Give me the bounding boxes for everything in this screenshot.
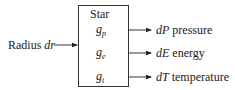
block-title: Star xyxy=(90,7,109,22)
output-label-temperature: dT temperature xyxy=(156,70,229,85)
function-gt: gt xyxy=(96,69,104,85)
output-var: dT xyxy=(156,70,169,84)
output-text: temperature xyxy=(169,70,229,84)
output-text: pressure xyxy=(169,23,212,37)
input-label: Radius dr xyxy=(8,38,55,53)
function-gp: gp xyxy=(96,22,106,38)
output-label-pressure: dP pressure xyxy=(156,23,212,38)
output-var: dP xyxy=(156,23,169,37)
input-var: dr xyxy=(44,38,55,52)
input-text: Radius xyxy=(8,38,44,52)
function-sub: p xyxy=(102,29,106,38)
function-ge: ge xyxy=(96,45,106,61)
function-sub: t xyxy=(102,76,104,85)
output-var: dE xyxy=(156,46,169,60)
function-sub: e xyxy=(102,52,106,61)
output-text: energy xyxy=(169,46,204,60)
output-label-energy: dE energy xyxy=(156,46,205,61)
